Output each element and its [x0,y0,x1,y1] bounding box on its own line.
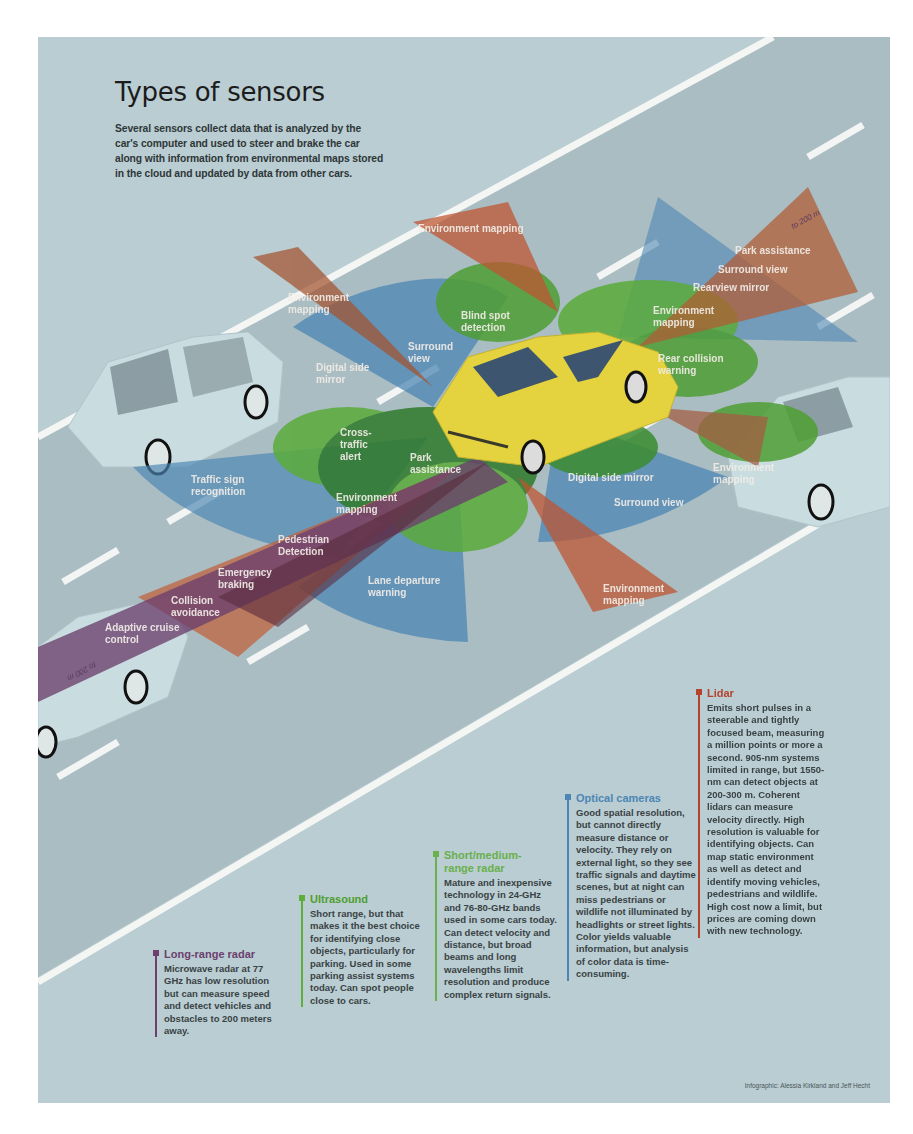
sensor-indicator-dot [565,794,571,800]
label-env-mapping-right: Environment mapping [713,462,788,486]
sensor-description: Good spatial resolution, but cannot dire… [576,807,697,981]
label-adaptive-cruise: Adaptive cruise control [105,622,185,646]
sensor-long-range-radar: Long-range radar Microwave radar at 77 G… [155,948,280,1037]
label-park-assistance-rear: Park assistance [735,245,811,257]
label-env-mapping-front: Environment mapping [336,492,411,516]
sensor-indicator-dot [433,851,439,857]
infographic-panel: Types of sensors Several sensors collect… [38,37,890,1103]
label-traffic-sign: Traffic sign recognition [191,474,261,498]
label-rearview-mirror: Rearview mirror [693,282,769,294]
sensor-name: Short/medium-range radar [444,849,544,875]
label-pedestrian: Pedestrian Detection [278,534,348,558]
sensor-description: Emits short pulses in a steerable and ti… [707,702,826,938]
label-surround-view-rear: Surround view [718,264,787,276]
label-park-assistance-front: Park assistance [410,452,470,476]
label-digital-side-mirror-left: Digital side mirror [316,362,376,386]
sensor-ultrasound: Ultrasound Short range, but that makes i… [301,893,421,1007]
sensor-indicator-line [155,953,157,1037]
sensor-lidar: Lidar Emits short pulses in a steerable … [698,687,826,938]
sensor-name: Long-range radar [164,948,280,961]
label-surround-view-right: Surround view [614,497,683,509]
label-collision-avoidance: Collision avoidance [171,595,231,619]
sensor-indicator-line [698,692,700,938]
sensor-indicator-line [301,898,303,1007]
intro-text: Several sensors collect data that is ana… [115,121,385,181]
label-blind-spot: Blind spot detection [461,310,523,334]
label-env-mapping-top: Environment mapping [418,223,524,235]
label-env-mapping-rear: Environment mapping [653,305,728,329]
sensor-name: Lidar [707,687,826,700]
sensor-indicator-line [567,797,569,981]
label-emergency-braking: Emergency braking [218,567,278,591]
label-env-mapping-left: Environment mapping [288,292,358,316]
label-surround-view-left: Surround view [408,341,458,365]
label-env-mapping-bottom: Environment mapping [603,583,678,607]
sensor-indicator-line [435,854,437,1001]
label-lane-departure: Lane departure warning [368,575,453,599]
label-rear-collision: Rear collision warning [658,353,733,377]
sensor-description: Mature and inexpensive technology in 24-… [444,877,560,1001]
label-digital-side-mirror-right: Digital side mirror [568,472,654,484]
sensor-indicator-dot [299,895,305,901]
sensor-description: Short range, but that makes it the best … [310,908,421,1007]
sensor-short-medium-radar: Short/medium-range radar Mature and inex… [435,849,560,1001]
credit-line: Infographic: Alessia Kirkland and Jeff H… [745,1082,870,1089]
sensor-indicator-dot [153,950,159,956]
sensor-description: Microwave radar at 77 GHz has low resolu… [164,963,280,1037]
sensor-name: Optical cameras [576,792,697,805]
label-cross-traffic: Cross-traffic alert [340,427,380,463]
sensor-optical-cameras: Optical cameras Good spatial resolution,… [567,792,697,981]
sensor-indicator-dot [696,689,702,695]
sensor-name: Ultrasound [310,893,421,906]
page-title: Types of sensors [115,77,325,107]
